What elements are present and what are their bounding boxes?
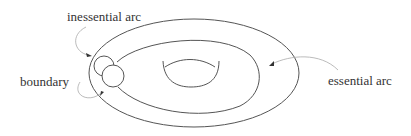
boundary-leader: [78, 82, 100, 98]
inessential-arc-label: inessential arc: [67, 10, 141, 23]
inessential-arrowhead-icon: [86, 53, 92, 57]
inessential-leader: [76, 27, 88, 55]
surface-diagram: [0, 0, 411, 136]
essential-arrowhead-icon: [269, 61, 274, 66]
essential-arc-label: essential arc: [328, 74, 392, 87]
boundary-circle: [102, 65, 124, 87]
essential-leader: [272, 57, 338, 70]
boundary-label: boundary: [20, 75, 69, 88]
handle-inner: [165, 60, 215, 68]
boundary-arrowhead-icon: [100, 91, 104, 96]
essential-arc-curve: [117, 40, 259, 113]
